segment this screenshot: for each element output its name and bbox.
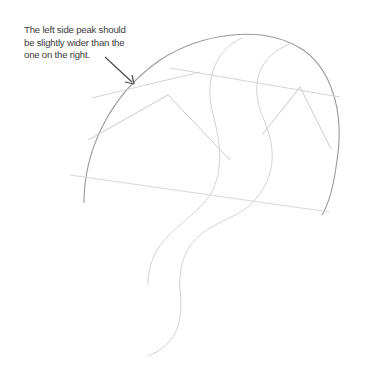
pencil-sketch: [0, 0, 367, 371]
left-peak: [88, 95, 230, 160]
river-right-edge: [148, 44, 290, 356]
outer-arc: [84, 34, 339, 215]
right-peak: [262, 87, 331, 149]
arrow-line: [105, 57, 132, 82]
river-left-edge: [148, 38, 242, 285]
